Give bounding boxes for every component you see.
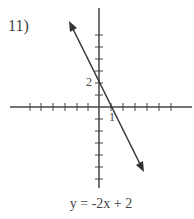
plotted-line: [72, 27, 141, 166]
equation-label: y = -2x + 2: [0, 196, 194, 212]
y-intercept-label: 2: [86, 75, 92, 90]
coordinate-plane: [0, 0, 194, 219]
x-intercept-label: 1: [109, 110, 115, 125]
